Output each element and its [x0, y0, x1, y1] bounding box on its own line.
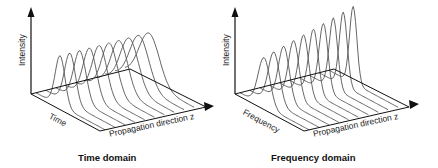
time-domain-diagram [0, 0, 219, 168]
z-arrow-icon [204, 102, 214, 111]
frequency-domain-diagram [219, 0, 438, 168]
intensity-axis-label: Intensity [17, 34, 27, 66]
intensity-arrow-icon [232, 7, 239, 17]
frequency-domain-caption: Frequency domain [271, 152, 355, 163]
time-domain-panel: Intensity Time Propagation direction z T… [0, 0, 219, 168]
pulse-curve [329, 6, 398, 107]
pulse-curve [319, 12, 388, 110]
pulse-curve [309, 18, 378, 113]
intensity-arrow-icon [28, 7, 35, 17]
pulse-curve [105, 38, 174, 112]
pulse-curve [115, 35, 184, 109]
z-arrow-icon [409, 100, 419, 109]
intensity-axis-label: Intensity [221, 34, 231, 66]
frequency-domain-panel: Intensity Frequency Propagation directio… [219, 0, 438, 168]
pulse-curve [36, 56, 105, 130]
pulse-curves [240, 6, 398, 129]
time-domain-caption: Time domain [78, 152, 136, 163]
